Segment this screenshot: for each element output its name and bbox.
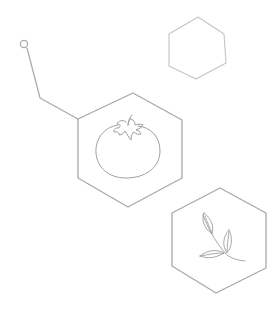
hexagon-diagram (0, 0, 280, 312)
leaf-sprig-icon (200, 213, 245, 261)
connector-line (20, 40, 78, 119)
tomato-hexagon (78, 93, 182, 207)
tomato-icon (96, 115, 160, 178)
connector-circle-node (20, 40, 27, 47)
leaf-hexagon (172, 188, 266, 293)
empty-hexagon (169, 17, 226, 79)
